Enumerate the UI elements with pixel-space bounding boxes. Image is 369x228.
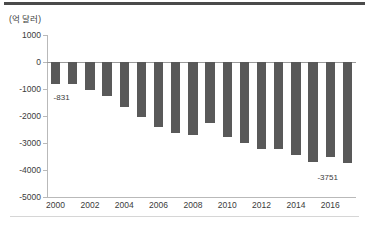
top-divider	[4, 2, 365, 5]
x-axis-tick-label: 2012	[252, 200, 271, 210]
y-axis-tick	[43, 143, 47, 144]
unit-label: (억 달러)	[9, 12, 41, 24]
bar	[171, 62, 180, 133]
bar	[308, 62, 317, 162]
y-axis-tick-label: -2000	[19, 111, 41, 121]
x-axis-tick-label: 2010	[218, 200, 237, 210]
bar	[188, 62, 197, 135]
bar	[223, 62, 232, 137]
y-axis-tick	[43, 116, 47, 117]
y-axis-line	[47, 35, 48, 197]
y-axis-tick-label: 1000	[22, 30, 41, 40]
y-axis-tick	[43, 62, 47, 63]
x-axis-tick-label: 2000	[46, 200, 65, 210]
bar	[274, 62, 283, 149]
y-axis-tick	[43, 35, 47, 36]
bar	[154, 62, 163, 127]
bar	[205, 62, 214, 123]
plot-area: 10000-1000-2000-3000-4000-5000 200020022…	[47, 35, 356, 197]
y-axis-tick	[43, 197, 47, 198]
y-axis-tick-label: -4000	[19, 165, 41, 175]
bar	[326, 62, 335, 157]
bottom-divider	[10, 216, 359, 217]
bar	[240, 62, 249, 143]
x-axis-tick-label: 2006	[149, 200, 168, 210]
y-axis-tick-label: -5000	[19, 192, 41, 202]
y-axis-tick	[43, 170, 47, 171]
x-axis-tick-label: 2008	[183, 200, 202, 210]
data-label: -3751	[317, 173, 337, 182]
x-axis-tick-label: 2014	[286, 200, 305, 210]
y-axis-tick-label: -1000	[19, 84, 41, 94]
x-axis-line	[47, 197, 356, 198]
bar	[51, 62, 60, 84]
bar	[120, 62, 129, 107]
bar	[343, 62, 352, 163]
x-axis-tick-label: 2002	[80, 200, 99, 210]
y-axis-tick-label: 0	[36, 57, 41, 67]
bar	[85, 62, 94, 90]
bar	[291, 62, 300, 155]
data-label: -831	[54, 93, 70, 102]
y-axis-tick-label: -3000	[19, 138, 41, 148]
bar	[68, 62, 77, 84]
chart-figure: (억 달러) 10000-1000-2000-3000-4000-5000 20…	[0, 0, 369, 228]
x-axis-tick-label: 2016	[321, 200, 340, 210]
bar	[137, 62, 146, 117]
bar	[102, 62, 111, 96]
x-axis-tick-label: 2004	[115, 200, 134, 210]
y-axis-tick	[43, 89, 47, 90]
bar	[257, 62, 266, 149]
